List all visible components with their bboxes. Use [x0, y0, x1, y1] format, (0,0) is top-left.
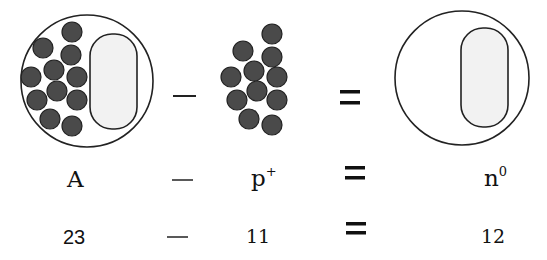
equals-icon	[340, 90, 360, 105]
protons-value: 11	[246, 227, 270, 246]
protons-cluster-icon	[221, 24, 287, 135]
equals-value-row-icon	[346, 222, 366, 235]
proton-symbol-base: p	[251, 165, 266, 191]
neutron-symbol-charge: 0	[499, 164, 507, 179]
mass-number-value: 23	[63, 227, 85, 247]
neutron-symbol: n0	[484, 167, 507, 190]
proton-symbol-charge: +	[266, 164, 277, 179]
atom-neutrons-only-icon	[395, 11, 529, 145]
neutrons-value: 12	[481, 227, 505, 246]
diagram-canvas	[0, 0, 547, 260]
mass-number-symbol: A	[67, 168, 84, 191]
proton-symbol: p+	[251, 167, 277, 190]
neutron-symbol-base: n	[484, 165, 499, 191]
atom-with-protons-icon	[21, 15, 153, 147]
equals-symbol-row-icon	[345, 166, 365, 180]
